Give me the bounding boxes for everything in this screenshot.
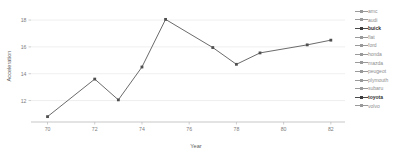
data-point[interactable]	[259, 52, 262, 55]
legend-item-label: mazda	[368, 59, 383, 68]
data-point[interactable]	[211, 46, 214, 49]
legend-swatch-icon	[355, 50, 368, 58]
legend-item-label: amc	[368, 7, 377, 16]
legend-swatch-icon	[355, 76, 368, 84]
legend-item-label: toyota	[368, 93, 383, 102]
line-chart-plot: 12141618 70727476788082 Year Acceleratio…	[0, 0, 407, 153]
legend-swatch-icon	[355, 42, 368, 50]
data-point[interactable]	[164, 18, 167, 21]
y-axis-ticks: 12141618	[21, 17, 31, 103]
legend-item-label: ford	[368, 41, 377, 50]
x-tick-label: 78	[234, 126, 240, 132]
x-tick-label: 76	[186, 126, 192, 132]
legend-item-audi[interactable]: audi	[355, 16, 407, 25]
legend-swatch-icon	[355, 16, 368, 24]
x-tick-label: 74	[139, 126, 145, 132]
data-point[interactable]	[117, 98, 120, 101]
legend: amcaudibuickfiatfordhondamazdapeugeotply…	[355, 7, 407, 110]
legend-item-honda[interactable]: honda	[355, 50, 407, 59]
x-tick-label: 80	[281, 126, 287, 132]
x-axis-ticks: 70727476788082	[45, 122, 334, 132]
legend-item-label: audi	[368, 16, 377, 25]
legend-item-label: honda	[368, 50, 382, 59]
legend-swatch-icon	[355, 85, 368, 93]
data-point[interactable]	[46, 115, 49, 118]
legend-item-amc[interactable]: amc	[355, 7, 407, 16]
legend-item-toyota[interactable]: toyota	[355, 93, 407, 102]
legend-item-peugeot[interactable]: peugeot	[355, 67, 407, 76]
legend-swatch-icon	[355, 93, 368, 101]
y-tick-label: 18	[21, 17, 27, 23]
legend-item-label: subaru	[368, 84, 383, 93]
legend-item-label: peugeot	[368, 67, 386, 76]
legend-swatch-icon	[355, 67, 368, 75]
legend-item-subaru[interactable]: subaru	[355, 84, 407, 93]
series-line[interactable]	[48, 19, 331, 116]
y-axis-title: Acceleration	[6, 51, 12, 82]
legend-swatch-icon	[355, 24, 368, 32]
data-point[interactable]	[93, 78, 96, 81]
legend-item-fiat[interactable]: fiat	[355, 33, 407, 42]
legend-item-label: fiat	[368, 33, 375, 42]
legend-item-label: plymouth	[368, 76, 388, 85]
legend-item-volvo[interactable]: volvo	[355, 102, 407, 111]
y-tick-label: 14	[21, 71, 27, 77]
legend-item-buick[interactable]: buick	[355, 24, 407, 33]
legend-item-label: buick	[368, 24, 381, 33]
legend-item-label: volvo	[368, 102, 380, 111]
chart-container: 12141618 70727476788082 Year Acceleratio…	[0, 0, 407, 153]
legend-swatch-icon	[355, 33, 368, 41]
data-point[interactable]	[329, 39, 332, 42]
data-point[interactable]	[141, 66, 144, 69]
x-axis-title: Year	[190, 143, 201, 149]
legend-item-plymouth[interactable]: plymouth	[355, 76, 407, 85]
legend-swatch-icon	[355, 7, 368, 15]
series-line-buick[interactable]	[48, 19, 331, 116]
data-point[interactable]	[235, 63, 238, 66]
x-tick-label: 72	[92, 126, 98, 132]
y-tick-label: 16	[21, 44, 27, 50]
y-tick-label: 12	[21, 98, 27, 104]
legend-swatch-icon	[355, 59, 368, 67]
gridlines	[31, 20, 345, 100]
data-point[interactable]	[306, 43, 309, 46]
x-tick-label: 70	[45, 126, 51, 132]
x-tick-label: 82	[328, 126, 334, 132]
legend-item-mazda[interactable]: mazda	[355, 59, 407, 68]
legend-swatch-icon	[355, 102, 368, 110]
legend-item-ford[interactable]: ford	[355, 41, 407, 50]
